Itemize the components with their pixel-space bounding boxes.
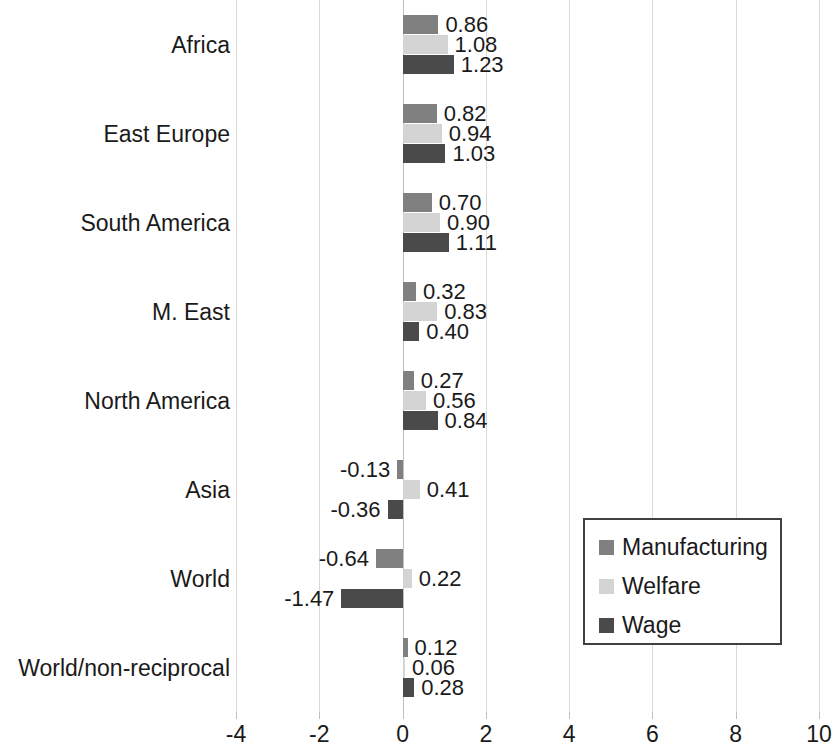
category-label: M. East	[0, 300, 230, 323]
legend-item[interactable]: Welfare	[599, 569, 780, 604]
bar-value-label: -1.47	[284, 588, 334, 610]
category-label: North America	[0, 389, 230, 412]
x-tick-label: 8	[729, 723, 742, 746]
bar-value-label: 0.22	[419, 568, 462, 590]
bar	[403, 35, 448, 54]
bar	[403, 233, 449, 252]
x-tick-label: 0	[396, 723, 409, 746]
gridline	[819, 0, 820, 712]
legend-item[interactable]: Wage	[599, 608, 780, 643]
legend-swatch-icon	[599, 579, 614, 594]
category-label: World	[0, 567, 230, 590]
legend-swatch-icon	[599, 540, 614, 555]
bar	[403, 193, 432, 212]
category-label: World/non-reciprocal	[0, 656, 230, 679]
x-tick-label: -4	[226, 723, 246, 746]
bar-value-label: 0.40	[426, 321, 469, 343]
bar	[403, 124, 442, 143]
x-tick-label: 2	[479, 723, 492, 746]
bar-value-label: 0.41	[427, 479, 470, 501]
bar	[403, 678, 415, 697]
bar-value-label: -0.64	[319, 548, 369, 570]
bar-chart: AfricaEast EuropeSouth AmericaM. EastNor…	[0, 0, 833, 752]
bar	[403, 480, 420, 499]
bar	[403, 371, 414, 390]
bar-value-label: 0.28	[421, 677, 464, 699]
legend: ManufacturingWelfareWage	[583, 518, 782, 645]
legend-label: Manufacturing	[622, 536, 768, 559]
bar-value-label: -0.36	[330, 499, 380, 521]
bar	[341, 589, 402, 608]
bar	[403, 322, 420, 341]
bar	[376, 549, 403, 568]
bar	[403, 658, 405, 677]
bar	[403, 213, 440, 232]
category-label: Africa	[0, 33, 230, 56]
x-tick-label: 6	[646, 723, 659, 746]
category-label: South America	[0, 211, 230, 234]
x-tick-label: 4	[563, 723, 576, 746]
bar	[403, 638, 408, 657]
legend-item[interactable]: Manufacturing	[599, 530, 780, 565]
gridline	[569, 0, 570, 712]
legend-swatch-icon	[599, 618, 614, 633]
bar	[403, 15, 439, 34]
x-tick-label: -2	[309, 723, 329, 746]
gridline	[236, 0, 237, 712]
bar-value-label: 1.23	[461, 54, 504, 76]
x-tick-label: 10	[806, 723, 832, 746]
bar	[388, 500, 403, 519]
bar	[403, 104, 437, 123]
bar	[403, 144, 446, 163]
bar	[403, 411, 438, 430]
bar-value-label: 1.03	[452, 143, 495, 165]
bar	[403, 569, 412, 588]
bar	[403, 391, 426, 410]
category-label: East Europe	[0, 122, 230, 145]
category-label: Asia	[0, 478, 230, 501]
legend-label: Welfare	[622, 575, 701, 598]
bar	[397, 460, 402, 479]
bar-value-label: 1.11	[456, 232, 497, 254]
category-axis: AfricaEast EuropeSouth AmericaM. EastNor…	[0, 0, 230, 712]
bar-value-label: 0.84	[445, 410, 488, 432]
value-axis: -4-20246810	[0, 712, 833, 752]
bar-value-label: -0.13	[340, 459, 390, 481]
legend-label: Wage	[622, 614, 681, 637]
bar	[403, 282, 416, 301]
bar	[403, 55, 454, 74]
